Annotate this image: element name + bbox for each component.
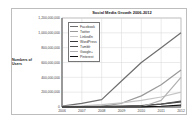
y-tick-label: 200,000,000 — [41, 90, 60, 94]
y-tick-label: 600,000,000 — [41, 61, 60, 65]
legend-swatch — [70, 46, 78, 48]
legend: FacebookTwitterLinkedInWordPressTumblrGo… — [68, 22, 100, 62]
x-tick-label: 2008 — [98, 109, 106, 113]
x-tick-label: 2012 — [177, 109, 185, 113]
legend-label: WordPress — [80, 40, 97, 44]
legend-label: Pinterest — [80, 55, 93, 59]
x-tick-label: 2007 — [78, 109, 86, 113]
x-tick-label: 2006 — [58, 109, 66, 113]
legend-swatch — [70, 51, 78, 53]
legend-label: Tumblr — [80, 45, 90, 49]
legend-label: LinkedIn — [80, 35, 93, 39]
y-tick-label: 800,000,000 — [41, 46, 60, 50]
legend-item: Pinterest — [70, 54, 98, 59]
y-tick-label: 1,000,000,000 — [38, 31, 60, 35]
legend-swatch — [70, 26, 78, 28]
legend-swatch — [70, 41, 78, 43]
x-tick-label: 2009 — [118, 109, 126, 113]
legend-swatch — [70, 36, 78, 38]
y-tick-label: 400,000,000 — [41, 76, 60, 80]
legend-swatch — [70, 31, 78, 33]
x-tick-label: 2011 — [158, 109, 165, 113]
legend-label: Facebook — [80, 25, 95, 29]
x-tick-label: 2010 — [138, 109, 146, 113]
legend-label: Google+ — [80, 50, 93, 54]
legend-label: Twitter — [80, 30, 90, 34]
y-tick-label: 1,200,000,000 — [38, 16, 60, 20]
legend-swatch — [70, 56, 78, 58]
